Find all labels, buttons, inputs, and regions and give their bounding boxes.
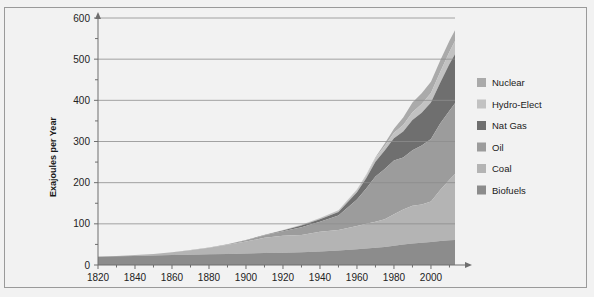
y-tick-label-500: 500 bbox=[73, 54, 90, 65]
legend-swatch-nuclear bbox=[477, 78, 486, 87]
chart-container: 0100200300400500600 18201840186018801900… bbox=[0, 0, 594, 297]
legend-swatch-coal bbox=[477, 164, 486, 173]
y-tick-label-400: 400 bbox=[73, 95, 90, 106]
y-tick-label-300: 300 bbox=[73, 136, 90, 147]
x-tick-labels-group: 1820184018601880190019201940196019802000 bbox=[87, 272, 443, 283]
legend-swatch-hydro-elect bbox=[477, 100, 486, 109]
x-tick-label-1880: 1880 bbox=[198, 272, 221, 283]
legend: NuclearHydro-ElectNat GasOilCoalBiofuels bbox=[477, 77, 542, 196]
legend-label-oil: Oil bbox=[492, 142, 504, 153]
legend-swatch-biofuels bbox=[477, 186, 486, 195]
x-tick-label-1820: 1820 bbox=[87, 272, 110, 283]
x-tick-label-1960: 1960 bbox=[346, 272, 369, 283]
legend-label-nat-gas: Nat Gas bbox=[492, 120, 527, 131]
stacked-areas-group bbox=[98, 30, 455, 265]
y-tick-label-200: 200 bbox=[73, 177, 90, 188]
y-tick-label-0: 0 bbox=[84, 260, 90, 271]
legend-swatch-oil bbox=[477, 143, 486, 152]
legend-label-coal: Coal bbox=[492, 163, 512, 174]
x-tick-label-1900: 1900 bbox=[235, 272, 258, 283]
y-tick-labels-group: 0100200300400500600 bbox=[73, 13, 90, 271]
x-tick-label-1840: 1840 bbox=[124, 272, 147, 283]
x-tick-label-1940: 1940 bbox=[309, 272, 332, 283]
y-tick-label-600: 600 bbox=[73, 13, 90, 24]
legend-swatch-nat-gas bbox=[477, 121, 486, 130]
x-axis-arrow bbox=[465, 262, 472, 268]
y-tick-label-100: 100 bbox=[73, 218, 90, 229]
legend-label-biofuels: Biofuels bbox=[492, 185, 526, 196]
x-tick-label-1920: 1920 bbox=[272, 272, 295, 283]
legend-label-nuclear: Nuclear bbox=[492, 77, 525, 88]
x-tick-label-2000: 2000 bbox=[420, 272, 443, 283]
x-tick-label-1860: 1860 bbox=[161, 272, 184, 283]
y-axis-title: Exajoules per Year bbox=[48, 117, 58, 197]
energy-area-chart: 0100200300400500600 18201840186018801900… bbox=[0, 0, 594, 297]
legend-label-hydro-elect: Hydro-Elect bbox=[492, 99, 542, 110]
x-tick-label-1980: 1980 bbox=[383, 272, 406, 283]
